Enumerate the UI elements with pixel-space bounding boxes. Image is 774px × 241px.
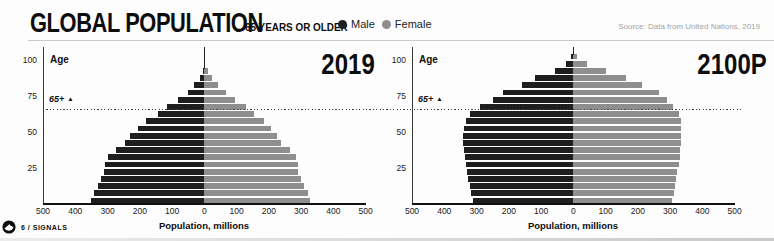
bar-2019-male-10-14 xyxy=(98,183,205,189)
bar-2100p-female-40-44 xyxy=(573,140,681,146)
female-legend-dot-icon xyxy=(382,20,391,29)
x-axis-tick: 500 xyxy=(397,206,427,216)
bar-2019-male-15-19 xyxy=(101,176,204,182)
bar-2100p-female-75-79 xyxy=(573,90,659,96)
bar-2100p-male-70-74 xyxy=(493,97,573,103)
x-axis-title: Population, millions xyxy=(473,220,673,231)
bar-2019-male-40-44 xyxy=(125,140,204,146)
y-axis-tick-50: 50 xyxy=(397,127,406,137)
bar-2019-male-60-64 xyxy=(158,111,205,117)
bar-2019-male-0-4 xyxy=(91,198,204,204)
infographic-page: GLOBAL POPULATION 65 YEARS OR OLDER Male… xyxy=(0,0,774,241)
bar-2019-male-45-49 xyxy=(130,133,204,139)
bar-2100p-female-45-49 xyxy=(573,133,681,139)
bar-2019-female-55-59 xyxy=(204,118,263,124)
x-axis-tick: 400 xyxy=(429,206,459,216)
bar-2100p-male-10-14 xyxy=(470,183,574,189)
bar-2019-female-60-64 xyxy=(204,111,254,117)
bar-2100p-male-40-44 xyxy=(463,140,573,146)
age-65-threshold-dotted-line xyxy=(43,109,743,110)
x-axis-tick: 200 xyxy=(623,206,653,216)
bar-2019-female-10-14 xyxy=(204,183,304,189)
pyramid-chart-2019: 2019 Age 65+▲ 255075100 5004003002001000… xyxy=(0,45,387,240)
center-axis-line xyxy=(573,47,574,55)
bar-2019-female-15-19 xyxy=(204,176,300,182)
bar-2019-female-45-49 xyxy=(204,133,277,139)
bar-2100p-female-95-99 xyxy=(573,61,587,67)
bar-2100p-female-30-34 xyxy=(573,154,679,160)
x-axis-tick: 100 xyxy=(157,206,187,216)
bar-2019-female-75-79 xyxy=(204,90,225,96)
bar-2019-male-75-79 xyxy=(188,90,204,96)
x-axis-tick: 300 xyxy=(286,206,316,216)
bar-2100p-male-75-79 xyxy=(503,90,573,96)
bar-2019-female-80-84 xyxy=(204,82,218,88)
bar-2100p-male-25-29 xyxy=(466,162,574,168)
legend: Male Female xyxy=(338,18,432,30)
bar-2100p-male-0-4 xyxy=(473,198,574,204)
bar-2019-female-0-4 xyxy=(204,198,309,204)
legend-label-female: Female xyxy=(395,18,432,30)
x-axis-tick: 200 xyxy=(125,206,155,216)
bar-2100p-female-70-74 xyxy=(573,97,667,103)
bar-2100p-female-50-54 xyxy=(573,126,681,132)
plot-area-2100p xyxy=(412,47,735,204)
bar-2100p-female-0-4 xyxy=(573,198,672,204)
bar-2019-female-70-74 xyxy=(204,97,235,103)
legend-label-male: Male xyxy=(351,18,375,30)
x-axis-tick: 500 xyxy=(28,206,58,216)
x-axis-tick: 200 xyxy=(494,206,524,216)
x-axis-tick: 500 xyxy=(351,206,381,216)
bar-2019-female-30-34 xyxy=(204,154,296,160)
x-axis-tick: 400 xyxy=(60,206,90,216)
bar-2100p-female-90-94 xyxy=(573,68,605,74)
bar-2100p-female-15-19 xyxy=(573,176,676,182)
bar-2019-female-50-54 xyxy=(204,126,271,132)
male-legend-dot-icon xyxy=(338,20,347,29)
page-subtitle: 65 YEARS OR OLDER xyxy=(245,21,348,33)
x-axis-tick: 0 xyxy=(189,206,219,216)
bar-2100p-male-90-94 xyxy=(555,68,573,74)
bar-2100p-male-30-34 xyxy=(465,154,574,160)
bar-2100p-male-95-99 xyxy=(566,61,573,67)
bar-2100p-female-5-9 xyxy=(573,190,673,196)
bar-2100p-female-25-29 xyxy=(573,162,678,168)
page-number-label: 6 / SIGNALS xyxy=(21,224,67,231)
y-axis-line xyxy=(412,47,413,204)
bar-2019-male-35-39 xyxy=(116,147,205,153)
bar-2019-female-25-29 xyxy=(204,162,298,168)
x-axis-tick: 400 xyxy=(318,206,348,216)
y-axis-tick-25: 25 xyxy=(28,163,37,173)
x-axis-tick: 500 xyxy=(720,206,750,216)
bar-2100p-male-85-89 xyxy=(535,75,573,81)
bar-2100p-male-50-54 xyxy=(464,126,573,132)
bar-2100p-male-80-84 xyxy=(522,82,574,88)
x-axis-tick: 300 xyxy=(655,206,685,216)
y-axis-tick-75: 75 xyxy=(28,91,37,101)
bar-2100p-female-60-64 xyxy=(573,111,678,117)
center-axis-line xyxy=(204,47,205,69)
bar-2100p-male-35-39 xyxy=(464,147,573,153)
bar-2100p-female-80-84 xyxy=(573,82,642,88)
x-axis-title: Population, millions xyxy=(104,220,304,231)
legend-item-male: Male xyxy=(338,18,375,30)
bar-2100p-female-20-24 xyxy=(573,169,677,175)
bar-2100p-male-20-24 xyxy=(467,169,573,175)
bar-2100p-female-85-89 xyxy=(573,75,626,81)
bar-2019-female-40-44 xyxy=(204,140,281,146)
bar-2019-male-70-74 xyxy=(178,97,204,103)
x-axis-tick: 300 xyxy=(93,206,123,216)
y-axis-tick-50: 50 xyxy=(28,127,37,137)
page-title: GLOBAL POPULATION xyxy=(30,7,263,39)
bar-2019-male-55-59 xyxy=(146,118,204,124)
source-attribution: Source: Data from United Nations, 2019 xyxy=(618,22,760,31)
bar-2019-female-85-89 xyxy=(204,75,212,81)
bar-2100p-female-35-39 xyxy=(573,147,680,153)
bar-2100p-female-100+ xyxy=(573,54,577,60)
pyramid-chart-2100p: 2100P Age 65+▲ 255075100 500400300200100… xyxy=(387,45,774,240)
x-axis-tick: 100 xyxy=(526,206,556,216)
bar-2100p-male-55-59 xyxy=(466,118,574,124)
bar-2100p-male-45-49 xyxy=(463,133,573,139)
y-axis-tick-100: 100 xyxy=(392,55,406,65)
header-divider xyxy=(28,40,774,41)
